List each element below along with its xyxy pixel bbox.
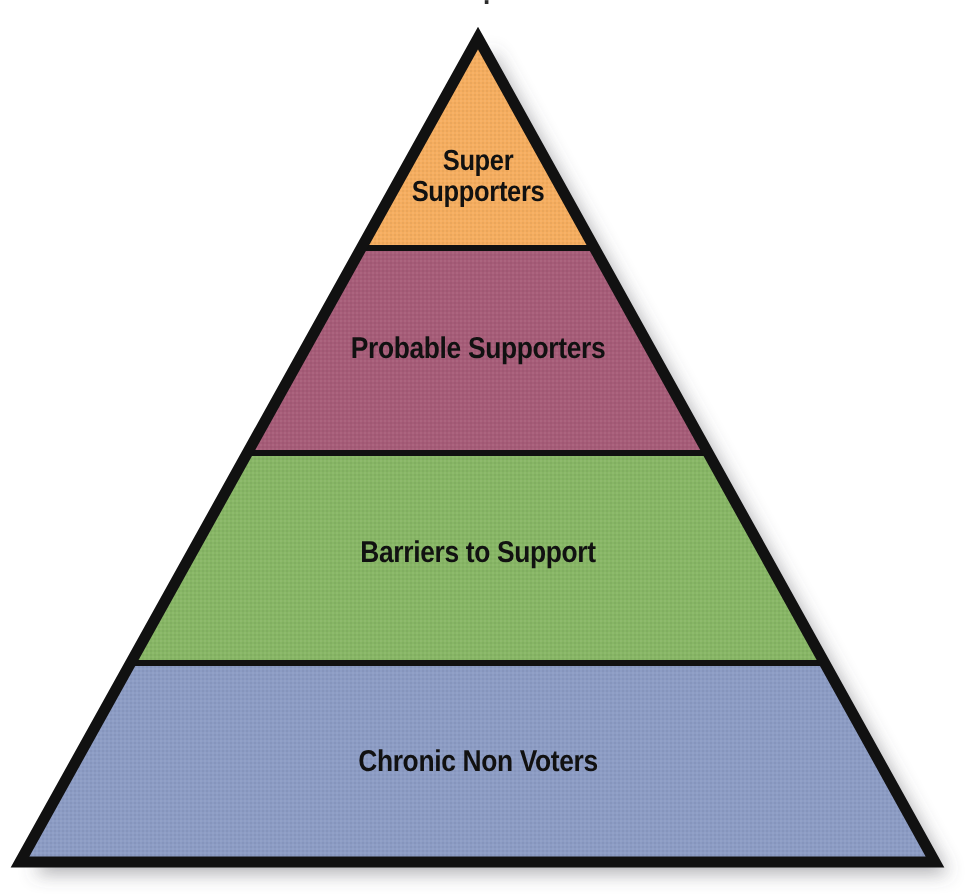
pyramid-diagram: . (0, 0, 973, 896)
pyramid-bands (0, 0, 973, 896)
pyramid-graphic (0, 0, 973, 896)
texture-overlay (0, 0, 973, 896)
